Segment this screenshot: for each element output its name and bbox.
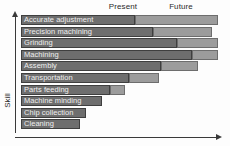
bar-row: Chip collection <box>21 108 86 118</box>
bar-row: Cleaning <box>21 119 80 129</box>
bar-category-label: Precision machining <box>24 27 92 37</box>
bar-category-label: Assembly <box>24 61 57 71</box>
bar-row: Accurate adjustment <box>21 15 218 25</box>
bar-segment-future <box>129 73 159 83</box>
bar-row: Transportation <box>21 73 159 83</box>
bar-row: Parts feeding <box>21 85 125 95</box>
bar-category-label: Parts feeding <box>24 85 69 95</box>
bar-category-label: Chip collection <box>24 108 74 118</box>
bar-segment-future <box>192 50 218 60</box>
bar-category-label: Machine minding <box>24 96 81 106</box>
bar-row: Grinding <box>21 38 218 48</box>
bar-segment-future <box>153 27 212 37</box>
bar-segment-future <box>110 85 126 95</box>
bar-category-label: Grinding <box>24 38 53 48</box>
bar-category-label: Transportation <box>24 73 73 83</box>
bar-category-label: Accurate adjustment <box>24 15 93 25</box>
skill-automation-bar-chart: Present Future Skill Accurate adjustment… <box>0 0 230 146</box>
bar-row: Machine minding <box>21 96 102 106</box>
bar-row: Machining <box>21 50 218 60</box>
bars-layer: Accurate adjustmentPrecision machiningGr… <box>0 0 230 146</box>
bar-row: Precision machining <box>21 27 212 37</box>
bar-segment-future <box>177 38 218 48</box>
bar-category-label: Cleaning <box>24 119 54 129</box>
bar-segment-future <box>161 61 198 71</box>
bar-segment-future <box>135 15 218 25</box>
bar-category-label: Machining <box>24 50 59 60</box>
bar-row: Assembly <box>21 61 198 71</box>
